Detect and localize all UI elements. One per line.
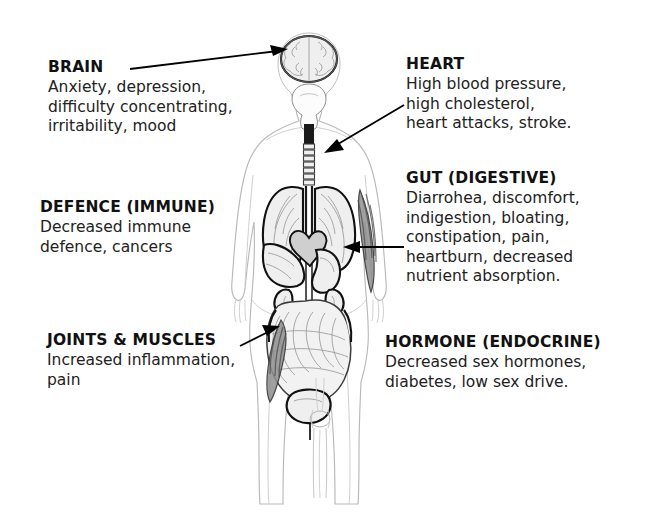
label-defence-immune: DEFENCE (IMMUNE) Decreased immune defenc…	[40, 198, 215, 257]
label-hormone-body: Decreased sex hormones, diabetes, low se…	[385, 353, 601, 392]
label-hormone-endocrine: HORMONE (ENDOCRINE) Decreased sex hormon…	[385, 333, 601, 392]
label-gut-heading: GUT (DIGESTIVE)	[406, 169, 580, 188]
label-gut-digestive: GUT (DIGESTIVE) Diarrohea, discomfort, i…	[406, 169, 580, 287]
label-brain-heading: BRAIN	[48, 58, 233, 77]
label-heart: HEART High blood pressure, high choleste…	[406, 55, 571, 134]
label-gut-body: Diarrohea, discomfort, indigestion, bloa…	[406, 189, 580, 287]
brain-icon	[281, 36, 337, 82]
label-joints-muscles: JOINTS & MUSCLES Increased inflammation,…	[47, 331, 235, 390]
label-joints-body: Increased inflammation, pain	[47, 351, 235, 390]
label-hormone-heading: HORMONE (ENDOCRINE)	[385, 333, 601, 352]
bladder	[287, 390, 331, 440]
label-defence-body: Decreased immune defence, cancers	[40, 218, 215, 257]
label-defence-heading: DEFENCE (IMMUNE)	[40, 198, 215, 217]
label-brain-body: Anxiety, depression, difficulty concentr…	[48, 78, 233, 137]
label-heart-body: High blood pressure, high cholesterol, h…	[406, 75, 571, 134]
diagram-canvas: BRAIN Anxiety, depression, difficulty co…	[0, 0, 654, 522]
label-brain: BRAIN Anxiety, depression, difficulty co…	[48, 58, 233, 137]
stomach	[312, 249, 340, 292]
label-joints-heading: JOINTS & MUSCLES	[47, 331, 235, 350]
label-heart-heading: HEART	[406, 55, 571, 74]
